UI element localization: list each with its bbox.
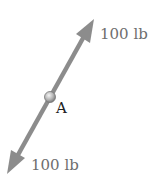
force-label-upper: 100 lb <box>100 25 148 43</box>
point-a-marker <box>45 92 56 103</box>
force-diagram: A 100 lb 100 lb <box>0 0 166 184</box>
arrowhead-up-right-icon <box>76 19 94 43</box>
arrowhead-down-left-icon <box>7 150 25 174</box>
force-label-lower: 100 lb <box>31 156 79 174</box>
point-a-label: A <box>55 99 67 117</box>
